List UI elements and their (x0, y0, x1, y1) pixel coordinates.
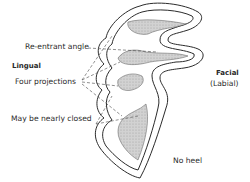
label-facial: Facial (216, 70, 239, 77)
tooth-occlusal-diagram (0, 0, 250, 182)
label-no-heel: No heel (173, 157, 202, 165)
label-labial: (Labial) (210, 80, 239, 88)
projection-lobes (118, 20, 188, 160)
label-lingual: Lingual (12, 63, 41, 70)
label-four-projections: Four projections (15, 78, 76, 86)
label-reentrant-angle: Re-entrant angle (25, 43, 89, 51)
label-may-be-nearly-closed: May be nearly closed (11, 115, 92, 123)
